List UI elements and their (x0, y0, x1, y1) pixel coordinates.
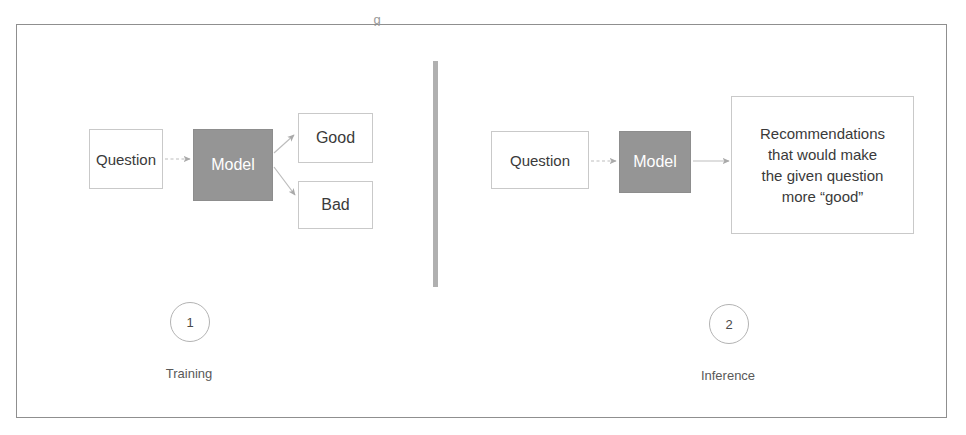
node-outcome-good: Good (298, 113, 373, 163)
node-recommendations-line-1: Recommendations (760, 123, 885, 144)
step-label-inference: Inference (668, 368, 788, 383)
node-outcome-bad: Bad (298, 181, 373, 229)
step-marker-2-number: 2 (725, 317, 732, 332)
panel-training: Question Model Good Bad 1 Training (17, 25, 435, 417)
node-recommendations-line-3: the given question (762, 165, 884, 186)
node-question-inference: Question (491, 131, 589, 189)
node-model-inference-label: Model (633, 153, 677, 171)
node-outcome-good-label: Good (316, 129, 355, 147)
step-label-training: Training (129, 366, 249, 381)
step-marker-2: 2 (709, 304, 749, 344)
node-question-inference-label: Question (510, 152, 570, 169)
figure-frame: g Question Model Good Bad (16, 24, 947, 418)
node-recommendations-line-2: that would make (768, 144, 877, 165)
step-marker-1: 1 (170, 302, 210, 342)
node-outcome-bad-label: Bad (321, 196, 349, 214)
node-question-training-label: Question (96, 151, 156, 168)
node-question-training: Question (89, 129, 163, 189)
node-recommendations: Recommendations that would make the give… (731, 96, 914, 234)
node-model-inference: Model (619, 131, 691, 193)
panel-inference: Question Model Recommendations that woul… (435, 25, 947, 417)
node-model-training-label: Model (211, 156, 255, 174)
step-marker-1-number: 1 (186, 315, 193, 330)
node-model-training: Model (193, 129, 273, 201)
node-recommendations-line-4: more “good” (782, 186, 864, 207)
